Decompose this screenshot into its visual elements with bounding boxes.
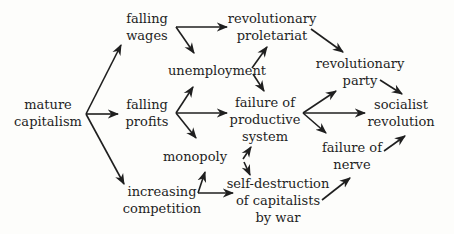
node-line: failure of — [230, 94, 301, 111]
node-revolutionary-party: revolutionary party — [316, 55, 405, 89]
node-revolutionary-proletariat: revolutionary proletariat — [228, 10, 317, 44]
node-monopoly: monopoly — [163, 148, 227, 165]
arrow-icon — [384, 136, 405, 151]
node-line: competition — [123, 200, 201, 217]
arrow-icon — [176, 87, 193, 113]
node-line: revolutionary — [228, 10, 317, 27]
node-line: party — [316, 72, 405, 89]
arrow-icon — [243, 147, 251, 159]
node-line: falling — [126, 10, 168, 27]
arrow-icon — [176, 27, 194, 53]
arrow-icon — [303, 113, 326, 133]
node-line: wages — [126, 27, 168, 44]
node-socialist-revolution: socialist revolution — [367, 96, 434, 130]
node-line: socialist — [367, 96, 434, 113]
node-line: system — [230, 128, 301, 145]
arrow-icon — [86, 45, 121, 114]
arrow-icon — [303, 91, 336, 113]
arrow-icon — [86, 114, 124, 184]
node-falling-profits: falling profits — [126, 96, 169, 130]
node-line: monopoly — [163, 148, 227, 165]
node-line: revolutionary — [316, 55, 405, 72]
node-line: capitalism — [14, 113, 82, 130]
node-line: self-destruction — [227, 175, 330, 192]
node-line: of capitalists — [227, 192, 330, 209]
node-line: failure of — [322, 139, 382, 156]
node-self-destruction: self-destruction of capitalists by war — [227, 175, 330, 226]
node-increasing-competition: increasing competition — [123, 183, 201, 217]
node-line: profits — [126, 113, 169, 130]
node-line: nerve — [322, 156, 382, 173]
node-line: by war — [227, 209, 330, 226]
node-unemployment: unemployment — [168, 62, 266, 79]
node-line: revolution — [367, 113, 434, 130]
node-failure-of-nerve: failure of nerve — [322, 139, 382, 173]
node-line: productive — [230, 111, 301, 128]
node-line: proletariat — [228, 27, 317, 44]
node-falling-wages: falling wages — [126, 10, 168, 44]
node-mature-capitalism: mature capitalism — [14, 96, 82, 130]
node-failure-of-productive-system: failure of productive system — [230, 94, 301, 145]
node-line: increasing — [123, 183, 201, 200]
node-line: mature — [14, 96, 82, 113]
arrow-icon — [244, 162, 250, 175]
causal-diagram: mature capitalism falling wages falling … — [0, 0, 454, 234]
node-line: unemployment — [168, 62, 266, 79]
node-line: falling — [126, 96, 169, 113]
arrow-icon — [176, 113, 196, 138]
